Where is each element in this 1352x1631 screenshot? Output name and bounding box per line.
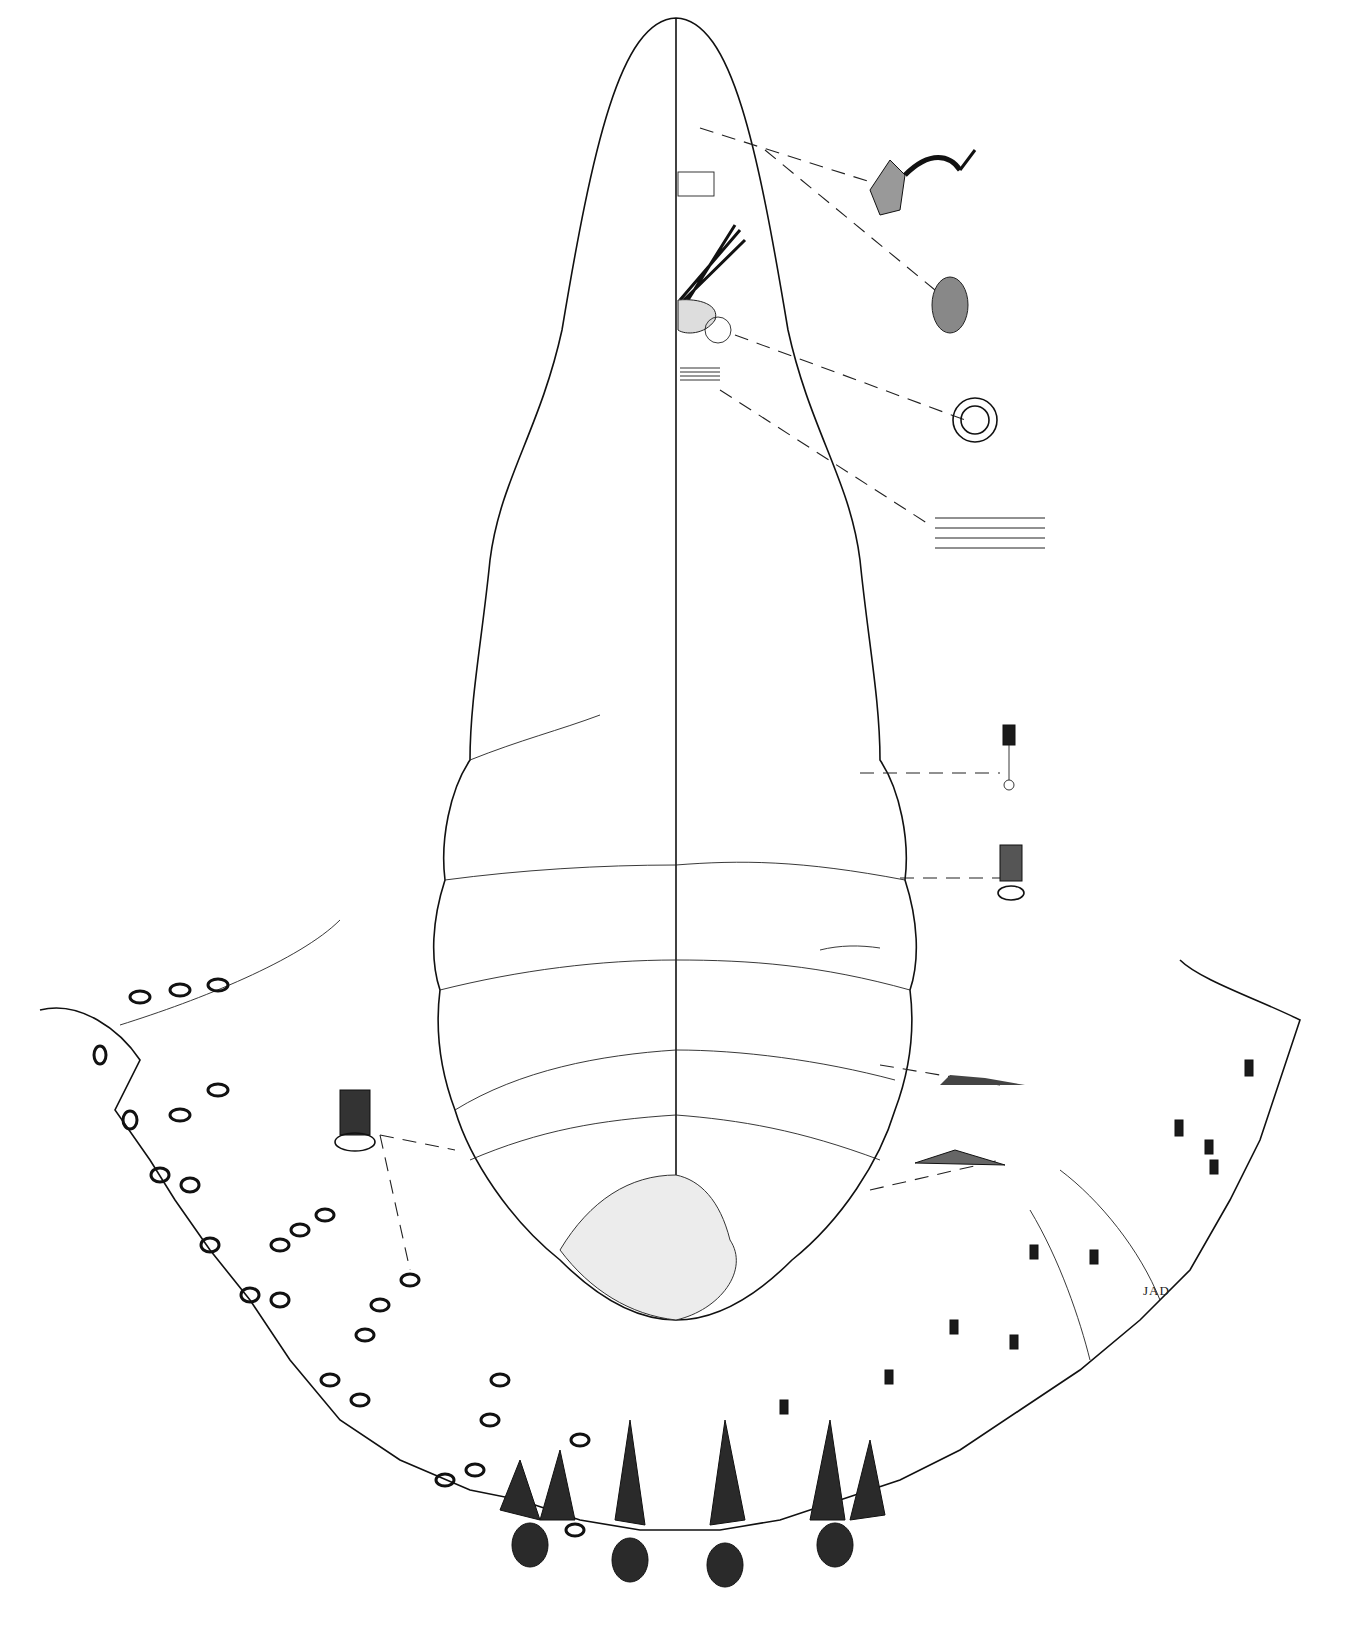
- pygidial-lobes: [500, 1420, 885, 1587]
- body-outline: [434, 18, 917, 1320]
- pygidium: [560, 1175, 736, 1320]
- segment-lines: [440, 715, 910, 1160]
- ducts: [94, 979, 589, 1536]
- scale-insect-illustration: [0, 0, 1352, 1631]
- mouthparts: [678, 172, 745, 380]
- right-macroducts: [780, 1060, 1253, 1414]
- artist-signature: JAD: [1143, 1283, 1170, 1299]
